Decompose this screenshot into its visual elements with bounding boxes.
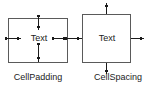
cellspacing-caption: CellSpacing <box>80 72 156 82</box>
cellspacing-cell-text: Text <box>90 33 124 43</box>
cellpadding-cellspacing-diagram <box>0 0 160 99</box>
cellpadding-caption: CellPadding <box>0 72 76 82</box>
cellpadding-cell-text: Text <box>23 33 55 43</box>
